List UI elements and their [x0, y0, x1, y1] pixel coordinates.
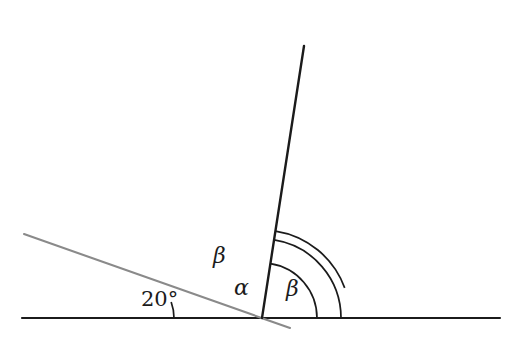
- label-angle-beta-right: β: [286, 278, 299, 300]
- label-angle-alpha: α: [234, 277, 249, 299]
- label-angle-beta-upper: β: [213, 245, 226, 267]
- geometry-diagram: 20° β α β: [0, 0, 519, 345]
- label-angle-20-degrees: 20°: [141, 289, 178, 310]
- arc-beta-right: [274, 240, 341, 318]
- geometry-canvas: [0, 0, 519, 345]
- transversal-ray-gray: [24, 234, 290, 328]
